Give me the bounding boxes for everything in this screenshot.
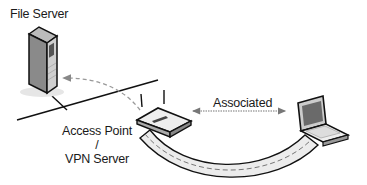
server-tower-icon bbox=[20, 27, 64, 97]
associated-label: Associated bbox=[213, 96, 272, 110]
diagram-graphics bbox=[0, 0, 367, 185]
access-point-label-line2: VPN Server bbox=[62, 152, 132, 166]
file-server-label: File Server bbox=[10, 7, 68, 21]
network-diagram: File Server Access Point / VPN Server As… bbox=[0, 0, 367, 185]
traffic-arrow bbox=[66, 78, 140, 110]
wireless-router-icon bbox=[137, 90, 191, 137]
access-point-label-line1: Access Point / bbox=[62, 124, 132, 152]
vpn-tunnel bbox=[140, 130, 318, 177]
access-point-label: Access Point / VPN Server bbox=[62, 124, 132, 166]
